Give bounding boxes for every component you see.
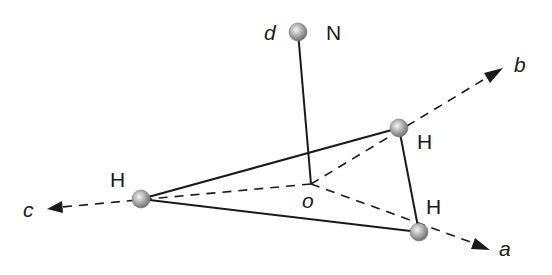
- label-b: b: [514, 53, 526, 76]
- atom-H2: [132, 190, 150, 208]
- ammonia-diagram: d N b H H H o c a: [0, 0, 552, 275]
- bond-N-o: [298, 32, 311, 184]
- label-N: N: [326, 21, 341, 44]
- label-H-bottom-right: H: [426, 195, 441, 218]
- atom-H1: [390, 119, 408, 137]
- label-a: a: [499, 237, 511, 260]
- atom-N: [289, 23, 307, 41]
- label-H-top-right: H: [417, 130, 432, 153]
- bond-H2-H3: [141, 199, 419, 232]
- label-c: c: [23, 198, 34, 221]
- label-H-left: H: [110, 168, 125, 191]
- axis-b-arrowhead-icon: [484, 68, 503, 83]
- bond-H1-H2: [141, 128, 399, 199]
- axis-c-arrowhead-icon: [47, 201, 63, 213]
- label-d: d: [264, 21, 277, 44]
- label-o: o: [302, 189, 314, 212]
- axis-a-arrowhead-icon: [471, 238, 490, 250]
- atom-H3: [410, 223, 428, 241]
- axis-a-line: [311, 184, 476, 244]
